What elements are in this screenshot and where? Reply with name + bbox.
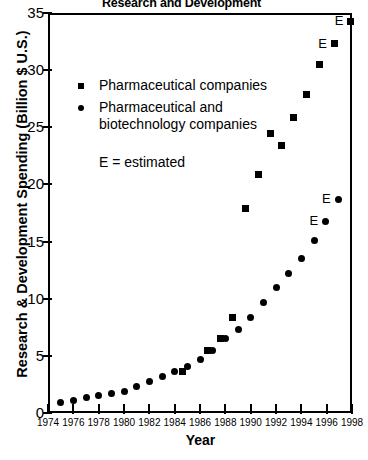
data-point-circle: [70, 397, 77, 404]
estimated-label: E: [309, 214, 318, 227]
data-point-square: [347, 18, 354, 25]
square-marker-icon: [78, 83, 84, 89]
data-point-circle: [247, 314, 254, 321]
legend-item-label: Pharmaceutical companies: [99, 77, 318, 94]
y-tick: [43, 298, 52, 300]
data-point-circle: [335, 196, 342, 203]
x-tick: [199, 404, 201, 414]
y-tick-label: 30: [4, 62, 44, 77]
y-tick: [43, 355, 52, 357]
data-point-circle: [146, 378, 153, 385]
x-tick: [250, 404, 252, 414]
x-tick: [275, 404, 277, 414]
y-tick-label: 15: [4, 234, 44, 249]
data-point-circle: [121, 388, 128, 395]
x-tick: [123, 404, 125, 414]
data-point-circle: [235, 326, 242, 333]
x-tick: [72, 404, 74, 414]
x-tick: [351, 404, 353, 414]
x-tick: [47, 404, 49, 414]
data-point-circle: [311, 237, 318, 244]
estimated-label: E: [322, 192, 331, 205]
estimated-label: E: [335, 14, 344, 27]
y-tick: [43, 12, 52, 14]
y-tick-label: 25: [4, 119, 44, 134]
x-tick: [224, 404, 226, 414]
x-tick: [300, 404, 302, 414]
data-point-square: [316, 61, 323, 68]
x-tick: [174, 404, 176, 414]
x-tick: [326, 404, 328, 414]
data-point-circle: [83, 394, 90, 401]
legend-item-label: Pharmaceutical andbiotechnology companie…: [99, 99, 318, 133]
estimated-note: E = estimated: [99, 154, 318, 171]
circle-marker-icon: [78, 105, 84, 111]
chart-title: Research and Development: [0, 0, 363, 10]
data-point-circle: [260, 299, 267, 306]
y-tick: [43, 69, 52, 71]
data-point-square: [255, 171, 262, 178]
y-tick: [43, 126, 52, 128]
estimated-label: E: [318, 37, 327, 50]
data-point-circle: [209, 347, 216, 354]
y-tick-label: 35: [4, 5, 44, 20]
data-point-circle: [108, 390, 115, 397]
y-tick-label: 5: [4, 348, 44, 363]
data-point-square: [229, 314, 236, 321]
data-point-square: [242, 205, 249, 212]
data-point-circle: [298, 255, 305, 262]
data-point-circle: [273, 284, 280, 291]
data-point-circle: [159, 373, 166, 380]
x-axis-label: Year: [48, 432, 353, 448]
y-tick: [43, 241, 52, 243]
data-point-circle: [322, 218, 329, 225]
x-tick: [148, 404, 150, 414]
y-tick: [43, 183, 52, 185]
data-point-square: [331, 40, 338, 47]
legend-item-pharmaceutical: Pharmaceutical companies: [78, 77, 318, 94]
plot-area: [48, 13, 352, 413]
legend-item-pharmaceutical-biotech: Pharmaceutical andbiotechnology companie…: [78, 99, 318, 133]
x-tick: [98, 404, 100, 414]
data-point-circle: [222, 335, 229, 342]
y-tick-label: 20: [4, 176, 44, 191]
data-point-circle: [197, 356, 204, 363]
x-tick-label: 1998: [332, 417, 368, 428]
y-tick-label: 10: [4, 291, 44, 306]
data-point-circle: [184, 363, 191, 370]
legend: Pharmaceutical companies Pharmaceutical …: [78, 77, 318, 171]
